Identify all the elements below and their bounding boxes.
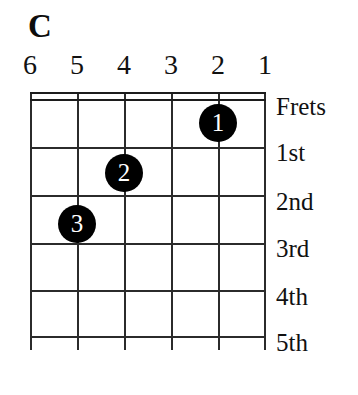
string-number-6: 6 xyxy=(15,48,45,82)
fret-line-3 xyxy=(30,243,266,245)
finger-dot-3: 3 xyxy=(58,205,96,243)
string-number-row: 654321 xyxy=(30,48,266,82)
string-number-4: 4 xyxy=(109,48,139,82)
fret-label-4th: 4th xyxy=(276,283,358,311)
fret-label-3rd: 3rd xyxy=(276,235,358,263)
fret-label-column: Frets1st2nd3rd4th5th xyxy=(276,88,358,358)
chord-name-title: C xyxy=(28,6,52,46)
fret-line-2 xyxy=(30,195,266,197)
fret-line-1 xyxy=(30,147,266,149)
string-number-3: 3 xyxy=(156,48,186,82)
chord-diagram-card: C 654321 123 Frets1st2nd3rd4th5th xyxy=(0,0,358,395)
fretboard-grid: 123 xyxy=(30,92,266,350)
fret-label-frets: Frets xyxy=(276,93,358,121)
fret-label-1st: 1st xyxy=(276,139,358,167)
nut-line-1 xyxy=(30,92,266,94)
string-number-2: 2 xyxy=(203,48,233,82)
string-number-1: 1 xyxy=(250,48,280,82)
fret-line-5 xyxy=(30,336,266,338)
fret-label-5th: 5th xyxy=(276,329,358,357)
string-line-3 xyxy=(171,92,173,350)
nut-line-2 xyxy=(30,99,266,101)
finger-dot-1: 1 xyxy=(199,104,237,142)
string-line-6 xyxy=(30,92,32,350)
fret-line-4 xyxy=(30,290,266,292)
string-line-1 xyxy=(264,92,266,350)
fret-label-2nd: 2nd xyxy=(276,188,358,216)
finger-dot-2: 2 xyxy=(105,154,143,192)
string-number-5: 5 xyxy=(62,48,92,82)
string-line-4 xyxy=(124,92,126,350)
